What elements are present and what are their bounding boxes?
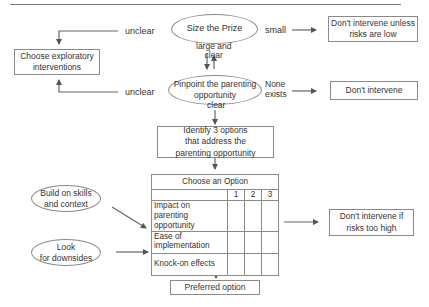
- dont-intervene-unless-label-1: Don't intervene unless: [331, 18, 415, 29]
- look-for-downsides-node: Look for downsides: [31, 239, 101, 266]
- identify-label-3: parenting opportunity: [176, 148, 256, 159]
- dont-intervene-if-label-1: Don't intervene if: [340, 211, 404, 222]
- choose-exploratory-label-2: interventions: [33, 62, 81, 73]
- dont-intervene-if-label-2: risks too high: [346, 223, 396, 234]
- identify-label-2: that address the: [185, 136, 246, 147]
- pinpoint-label-1: Pinpoint the parenting: [174, 79, 257, 90]
- option-table: Choose an Option 1 2 3 Impact on parenti…: [151, 174, 279, 276]
- edge-label-unclear-bottom: unclear: [125, 87, 155, 98]
- dont-intervene-if-node: Don't intervene if risks too high: [329, 209, 414, 236]
- look-downsides-label-2: for downsides: [40, 253, 92, 264]
- dont-intervene-label: Don't intervene: [346, 85, 403, 96]
- criterion-knock-on-line-1: Knock-on effects: [154, 259, 215, 268]
- criterion-impact-line-2: opportunity: [154, 221, 195, 230]
- criterion-ease: Ease ofimplementation: [152, 231, 228, 253]
- criterion-knock-on: Knock-on effects: [152, 253, 228, 275]
- cell-impact-1: [228, 201, 245, 232]
- none-exists-line-2: exists: [265, 89, 287, 99]
- cell-knock-on-1: [228, 253, 245, 275]
- build-skills-label-1: Build on skills: [40, 188, 92, 199]
- preferred-option-label: Preferred option: [185, 282, 246, 293]
- edge-label-unclear-top: unclear: [125, 26, 155, 37]
- none-exists-line-1: None: [265, 79, 287, 89]
- cell-ease-3: [262, 231, 279, 253]
- identify-options-node: Identify 3 options that address the pare…: [157, 126, 274, 158]
- choose-exploratory-label-1: Choose exploratory: [20, 51, 94, 62]
- cell-knock-on-2: [245, 253, 262, 275]
- edge-label-large-clear: large and clear: [196, 42, 231, 60]
- identify-label-1: Identify 3 options: [183, 125, 247, 136]
- cell-knock-on-3: [262, 253, 279, 275]
- dont-intervene-unless-label-2: risks are low: [349, 29, 396, 40]
- cell-ease-1: [228, 231, 245, 253]
- option-table-title: Choose an Option: [152, 175, 279, 190]
- size-the-prize-node: Size the Prize: [171, 14, 258, 44]
- look-downsides-label-1: Look: [57, 242, 75, 253]
- dont-intervene-unless-node: Don't intervene unless risks are low: [328, 16, 418, 42]
- build-skills-label-2: and context: [44, 199, 88, 210]
- size-the-prize-label: Size the Prize: [187, 23, 243, 34]
- choose-exploratory-node: Choose exploratory interventions: [14, 49, 100, 75]
- cell-impact-2: [245, 201, 262, 232]
- option-table-corner: [152, 190, 228, 201]
- edge-label-clear: clear: [207, 100, 225, 111]
- option-column-3: 3: [262, 190, 279, 201]
- option-column-2: 2: [245, 190, 262, 201]
- cell-impact-3: [262, 201, 279, 232]
- build-on-skills-node: Build on skills and context: [31, 185, 101, 212]
- edge-label-small: small: [265, 25, 286, 36]
- criterion-impact-line-1: Impact on parenting: [154, 201, 190, 220]
- preferred-option-node: Preferred option: [170, 280, 260, 295]
- option-column-1: 1: [228, 190, 245, 201]
- large-clear-line-2: clear: [196, 51, 231, 60]
- cell-ease-2: [245, 231, 262, 253]
- criterion-impact: Impact on parentingopportunity: [152, 201, 228, 232]
- edge-label-none-exists: None exists: [265, 79, 287, 99]
- criterion-ease-line-2: implementation: [154, 241, 210, 250]
- criterion-ease-line-1: Ease of: [154, 232, 182, 241]
- dont-intervene-node: Don't intervene: [330, 81, 418, 100]
